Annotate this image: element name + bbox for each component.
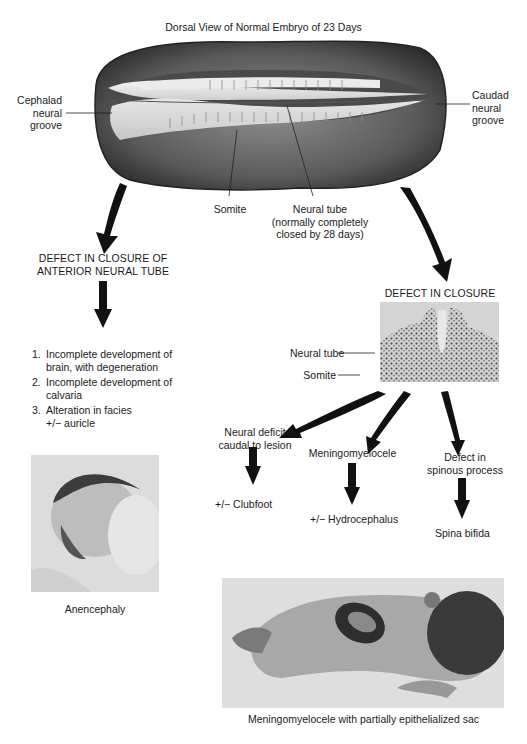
- item-line: Alteration in facies: [46, 404, 172, 417]
- result-hydrocephalus: +/− Hydrocephalus: [310, 513, 398, 526]
- cause-line: Defect in: [420, 451, 510, 464]
- anterior-defect-heading: DEFECT IN CLOSURE OF ANTERIOR NEURAL TUB…: [20, 252, 186, 277]
- label-line: neural: [472, 102, 509, 115]
- anencephaly-caption: Anencephaly: [31, 603, 159, 616]
- list-item: 3. Alteration in facies +/− auricle: [32, 404, 172, 429]
- histology-section: [380, 302, 499, 382]
- item-line: calvaria: [46, 389, 172, 402]
- item-line: Incomplete development of: [46, 376, 172, 389]
- meningomyelocele-caption: Meningomyelocele with partially epitheli…: [200, 713, 527, 726]
- item-line: brain, with degeneration: [46, 361, 172, 374]
- arrow-to-hydrocephalus: [344, 463, 360, 505]
- section-label-somite: Somite: [290, 369, 336, 382]
- arrow-to-clubfoot: [245, 447, 261, 485]
- label-line: closed by 28 days): [270, 228, 370, 241]
- list-item: 2. Incomplete development of calvaria: [32, 376, 172, 401]
- anterior-defect-list: 1. Incomplete development of brain, with…: [32, 348, 172, 432]
- cause-line: caudal to lesion: [212, 439, 298, 452]
- label-line: Cephalad: [14, 94, 62, 107]
- embryo-illustration: [95, 41, 446, 190]
- result-clubfoot: +/− Clubfoot: [215, 498, 272, 511]
- label-line: groove: [472, 114, 509, 127]
- heading-line: ANTERIOR NEURAL TUBE: [20, 265, 186, 278]
- list-item: 1. Incomplete development of brain, with…: [32, 348, 172, 373]
- arrow-to-spina-bifida: [454, 478, 470, 519]
- cause-line: Neural deficit: [212, 426, 298, 439]
- label-caudad-groove: Caudad neural groove: [472, 89, 509, 127]
- label-line: neural: [14, 107, 62, 120]
- item-line: +/− auricle: [46, 417, 172, 430]
- arrow-to-closure-defect: [400, 187, 452, 282]
- cause-line: spinous process: [420, 464, 510, 477]
- outcome-spinous-defect: Defect in spinous process: [420, 451, 510, 476]
- item-line: Incomplete development of: [46, 348, 172, 361]
- closure-defect-heading: DEFECT IN CLOSURE: [380, 287, 500, 300]
- arrow-to-spinous-defect: [441, 391, 465, 456]
- label-line: (normally completely: [270, 216, 370, 229]
- label-line: Neural tube: [270, 203, 370, 216]
- item-number: 1.: [32, 348, 41, 361]
- anencephaly-photo: [31, 455, 159, 592]
- label-somite: Somite: [205, 203, 255, 216]
- label-line: Caudad: [472, 89, 509, 102]
- item-number: 3.: [32, 404, 41, 417]
- arrow-to-anterior-defect: [96, 183, 127, 254]
- heading-line: DEFECT IN CLOSURE OF: [20, 252, 186, 265]
- arrow-to-list: [94, 281, 112, 328]
- section-label-neural-tube: Neural tube: [290, 347, 336, 360]
- label-cephalad-groove: Cephalad neural groove: [14, 94, 62, 132]
- label-neural-tube: Neural tube (normally completely closed …: [270, 203, 370, 241]
- result-spina-bifida: Spina bifida: [435, 527, 490, 540]
- item-number: 2.: [32, 376, 41, 389]
- meningomyelocele-photo: [222, 578, 504, 708]
- label-line: groove: [14, 119, 62, 132]
- outcome-neural-deficit: Neural deficit caudal to lesion: [212, 426, 298, 451]
- outcome-meningomyelocele: Meningomyelocele: [305, 447, 400, 460]
